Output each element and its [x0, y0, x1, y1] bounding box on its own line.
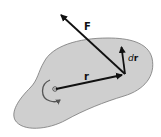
- label-dr: dr: [128, 53, 139, 63]
- label-dr-r: r: [134, 53, 139, 63]
- diagram-canvas: F r dr: [0, 0, 161, 137]
- label-r: r: [84, 71, 89, 82]
- label-F: F: [84, 21, 91, 32]
